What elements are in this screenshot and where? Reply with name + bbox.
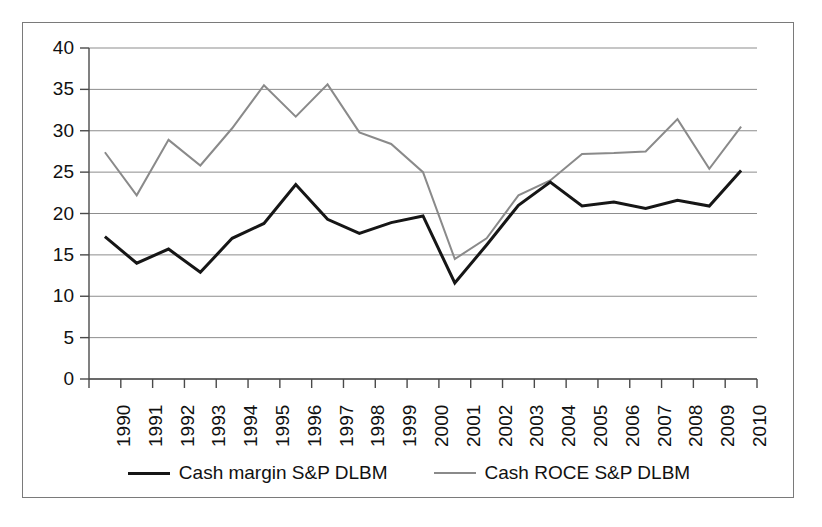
- y-tick-label: 35: [34, 79, 74, 98]
- y-tick-label: 40: [34, 38, 74, 57]
- x-tick-label: 2002: [496, 405, 515, 447]
- chart-legend: Cash margin S&P DLBM Cash ROCE S&P DLBM: [23, 457, 795, 489]
- x-tick-label: 2005: [591, 405, 610, 447]
- x-tick-label: 1999: [400, 405, 419, 447]
- legend-line-swatch-icon: [434, 472, 476, 474]
- y-tick-label: 30: [34, 121, 74, 140]
- x-tick-label: 2001: [464, 405, 483, 447]
- y-tick-label: 10: [34, 286, 74, 305]
- x-tick-label: 1991: [146, 405, 165, 447]
- x-tick-label: 2010: [750, 405, 769, 447]
- legend-entry-cash-roce: Cash ROCE S&P DLBM: [434, 463, 691, 483]
- x-tick-label: 1998: [368, 405, 387, 447]
- y-tick-label: 25: [34, 162, 74, 181]
- x-tick-label: 1996: [305, 405, 324, 447]
- plot-area: 0510152025303540 19901991199219931994199…: [23, 23, 795, 499]
- y-tick-label: 0: [34, 369, 74, 388]
- chart-figure: 0510152025303540 19901991199219931994199…: [22, 22, 794, 498]
- legend-label: Cash margin S&P DLBM: [179, 463, 388, 483]
- legend-line-swatch-icon: [128, 472, 170, 475]
- x-tick-label: 1990: [114, 405, 133, 447]
- legend-entry-cash-margin: Cash margin S&P DLBM: [128, 463, 388, 483]
- x-tick-label: 2007: [655, 405, 674, 447]
- x-tick-label: 1992: [178, 405, 197, 447]
- series-line-0: [105, 170, 741, 283]
- legend-label: Cash ROCE S&P DLBM: [485, 463, 691, 483]
- x-tick-label: 2006: [623, 405, 642, 447]
- x-tick-label: 1993: [209, 405, 228, 447]
- x-tick-label: 1997: [337, 405, 356, 447]
- y-tick-label: 20: [34, 204, 74, 223]
- x-tick-label: 2009: [718, 405, 737, 447]
- x-tick-label: 2003: [527, 405, 546, 447]
- x-tick-label: 2004: [559, 405, 578, 447]
- x-tick-label: 2000: [432, 405, 451, 447]
- x-tick-label: 2008: [686, 405, 705, 447]
- x-tick-label: 1995: [273, 405, 292, 447]
- y-tick-label: 15: [34, 245, 74, 264]
- x-tick-label: 1994: [241, 405, 260, 447]
- y-tick-label: 5: [34, 328, 74, 347]
